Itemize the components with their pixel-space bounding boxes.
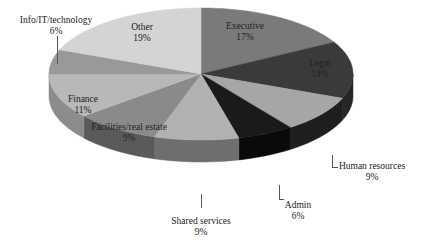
label-legal-pct: 14% <box>309 69 331 80</box>
label-shared-pct: 9% <box>171 227 230 238</box>
label-finance-name: Finance <box>68 94 98 105</box>
label-hr-pct: 9% <box>339 172 405 183</box>
label-executive-pct: 17% <box>226 32 264 43</box>
leader-line-admin-h <box>279 199 284 200</box>
label-info-pct: 6% <box>20 26 92 37</box>
label-facilities: Facilities/real estate 9% <box>91 122 167 144</box>
leader-line-info <box>57 36 58 64</box>
label-admin-name: Admin <box>285 200 311 211</box>
label-executive-name: Executive <box>226 21 264 32</box>
label-info-name: Info/IT/technology <box>20 15 92 26</box>
label-finance: Finance 11% <box>68 94 98 116</box>
pie-slices <box>49 8 353 140</box>
label-legal-name: Legal <box>309 58 331 69</box>
leader-line-hr-h <box>332 167 338 168</box>
leader-line-admin <box>279 185 280 199</box>
label-other: Other 19% <box>131 22 153 44</box>
label-hr-name: Human resources <box>339 161 405 172</box>
label-admin: Admin 6% <box>285 200 311 222</box>
leader-line-shared <box>201 194 202 208</box>
label-hr: Human resources 9% <box>339 161 405 183</box>
label-legal: Legal 14% <box>309 58 331 80</box>
label-shared-name: Shared services <box>171 216 230 227</box>
label-facilities-name: Facilities/real estate <box>91 122 167 133</box>
label-admin-pct: 6% <box>285 211 311 222</box>
label-other-name: Other <box>131 22 153 33</box>
label-executive: Executive 17% <box>226 21 264 43</box>
label-facilities-pct: 9% <box>91 133 167 144</box>
label-shared: Shared services 9% <box>171 216 230 238</box>
label-other-pct: 19% <box>131 33 153 44</box>
label-info: Info/IT/technology 6% <box>20 15 92 37</box>
label-finance-pct: 11% <box>68 105 98 116</box>
leader-line-hr <box>332 155 333 167</box>
